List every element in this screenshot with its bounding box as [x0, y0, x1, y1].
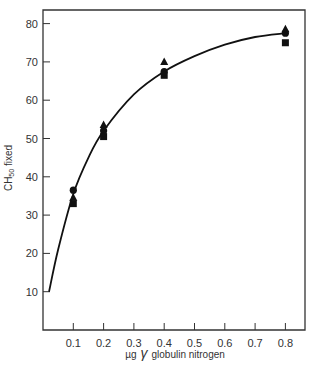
triangle-marker [69, 193, 77, 201]
x-axis-title-text: µgγglobulin nitrogen [125, 345, 225, 361]
y-tick-label: 70 [26, 56, 38, 68]
x-tick-label: 0.3 [126, 337, 141, 349]
y-tick-label: 40 [26, 171, 38, 183]
y-axis-title: CH50 fixed [3, 145, 15, 191]
x-tick-label: 0.6 [217, 337, 232, 349]
x-tick-label: 0.1 [66, 337, 81, 349]
y-axis-ticks: 1020304050607080 [26, 18, 50, 298]
y-tick-label: 60 [26, 94, 38, 106]
y-tick-label: 30 [26, 209, 38, 221]
x-tick-label: 0.5 [187, 337, 202, 349]
chart: 1020304050607080 0.10.20.30.40.50.60.70.… [0, 0, 315, 374]
square-marker [282, 39, 289, 46]
circle-marker [70, 187, 77, 194]
y-tick-label: 80 [26, 18, 38, 30]
y-axis-title-text: CH50 fixed [3, 145, 15, 191]
square-marker [100, 133, 107, 140]
triangle-marker [100, 121, 108, 129]
x-tick-label: 0.7 [247, 337, 262, 349]
triangle-marker [160, 57, 168, 65]
y-tick-label: 50 [26, 133, 38, 145]
y-tick-label: 20 [26, 247, 38, 259]
square-marker [70, 200, 77, 207]
x-tick-label: 0.4 [157, 337, 172, 349]
x-tick-label: 0.8 [278, 337, 293, 349]
data-points [69, 25, 289, 207]
y-tick-label: 10 [26, 286, 38, 298]
square-marker [161, 72, 168, 79]
x-tick-label: 0.2 [96, 337, 111, 349]
x-axis-ticks: 0.10.20.30.40.50.60.70.8 [66, 323, 293, 349]
x-axis-title: µgγglobulin nitrogen [125, 345, 225, 361]
triangle-marker [281, 25, 289, 33]
